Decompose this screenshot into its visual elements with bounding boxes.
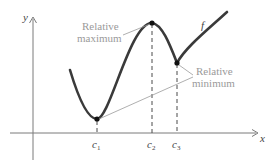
c3-label: c3 [172,138,181,152]
c1-label: c1 [92,138,101,152]
relative-minimum-point-c3 [174,60,179,65]
relative-maximum-label-line2: maximum [77,32,122,44]
c2-label: c2 [147,138,156,152]
relative-minimum-label-line2: minimum [192,77,235,89]
maximum-leader-line [123,24,150,35]
function-graph: x y f Relative maximum Relative minimum … [0,0,275,163]
relative-minimum-point-c1 [94,116,99,121]
function-label: f [201,19,206,31]
x-axis-label: x [259,132,265,144]
minimum-leader-line-c3 [179,65,193,75]
minimum-leader-line-c1 [99,77,193,119]
relative-maximum-point-c2 [149,20,154,25]
y-axis-label: y [22,11,28,23]
relative-minimum-label-line1: Relative [196,65,233,77]
relative-maximum-label-line1: Relative [82,20,119,32]
